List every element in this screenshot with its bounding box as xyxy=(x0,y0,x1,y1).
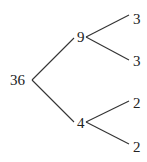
node-2-bottom: 2 xyxy=(133,139,141,155)
factor-tree-diagram: 36 9 4 3 3 2 2 xyxy=(0,0,147,162)
node-2-top: 2 xyxy=(133,95,141,111)
edge-9-to-3-top xyxy=(86,15,129,37)
node-3-bottom: 3 xyxy=(133,53,141,69)
node-4: 4 xyxy=(77,115,85,131)
edge-4-to-2-bottom xyxy=(86,122,129,144)
edge-36-to-4 xyxy=(32,80,74,122)
node-9: 9 xyxy=(77,29,85,45)
edge-36-to-9 xyxy=(32,38,74,80)
node-root: 36 xyxy=(10,72,26,88)
edge-9-to-3-bottom xyxy=(86,37,129,60)
tree-nodes: 36 9 4 3 3 2 2 xyxy=(10,11,141,155)
edge-4-to-2-top xyxy=(86,101,129,122)
node-3-top: 3 xyxy=(133,11,141,27)
